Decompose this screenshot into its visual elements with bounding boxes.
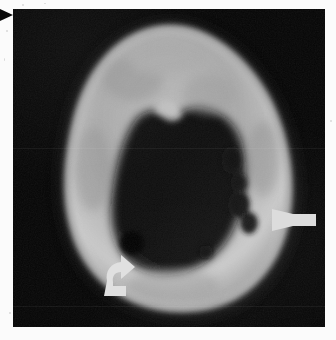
figure-root (0, 0, 336, 340)
figure-margin-pointer-icon (0, 8, 14, 22)
film-grain (13, 9, 325, 327)
bone-cross-section-image (13, 9, 325, 327)
scan-image-panel (13, 9, 325, 327)
